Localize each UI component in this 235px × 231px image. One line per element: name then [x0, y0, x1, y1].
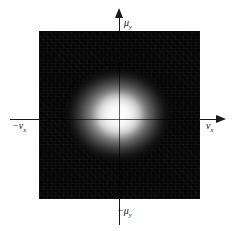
- axis-label-mu-y-positive: μy: [124, 18, 132, 31]
- axis-label-mu-y-negative-symbol: −μ: [117, 205, 129, 216]
- axis-label-nu-x-negative-subscript: x: [23, 126, 26, 133]
- axis-label-nu-x-negative-symbol: −ν: [12, 120, 23, 131]
- spatial-frequency-figure: μy −μy −νx νx: [0, 0, 235, 231]
- axis-label-mu-y-negative: −μy: [117, 206, 132, 219]
- axis-label-mu-y-positive-subscript: y: [129, 23, 132, 30]
- arrow-up-icon: [115, 8, 123, 18]
- axis-label-nu-x-negative: −νx: [12, 121, 26, 134]
- vertical-axis-upper-segment: [119, 16, 120, 32]
- intensity-field: [39, 31, 200, 199]
- axis-label-nu-x-positive: νx: [206, 121, 213, 134]
- crosshair-horizontal-line: [49, 119, 197, 120]
- axis-label-nu-x-positive-subscript: x: [210, 126, 213, 133]
- crosshair-vertical-line: [119, 59, 120, 199]
- arrow-right-icon: [216, 115, 226, 123]
- axis-label-mu-y-negative-subscript: y: [129, 211, 132, 218]
